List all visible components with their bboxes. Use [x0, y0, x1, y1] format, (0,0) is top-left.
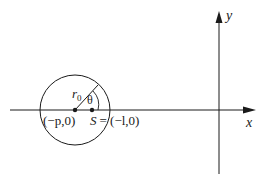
- center-point: [73, 108, 77, 112]
- y-axis-arrowhead-icon: [216, 11, 223, 23]
- x-axis-arrowhead-icon: [243, 107, 256, 114]
- x-axis-label: x: [245, 115, 253, 130]
- center-point-label: (−p,0): [43, 113, 75, 128]
- theta-arc: [93, 91, 99, 110]
- theta-label: θ: [87, 93, 93, 107]
- source-point-s: [90, 108, 94, 112]
- diagram-canvas: y x r0 θ (−p,0) S= (−l,0): [0, 0, 264, 181]
- source-point-label: S= (−l,0): [90, 113, 139, 128]
- center-point-coords: (−p,0): [43, 113, 75, 128]
- diagram-svg: y x r0 θ (−p,0) S= (−l,0): [0, 0, 264, 181]
- radius-label: r0: [72, 86, 82, 103]
- y-axis: [216, 11, 223, 174]
- source-point-name: S: [90, 113, 97, 128]
- radius-label-subscript: 0: [77, 93, 82, 103]
- y-axis-label: y: [224, 8, 233, 23]
- source-point-coords: = (−l,0): [100, 113, 140, 128]
